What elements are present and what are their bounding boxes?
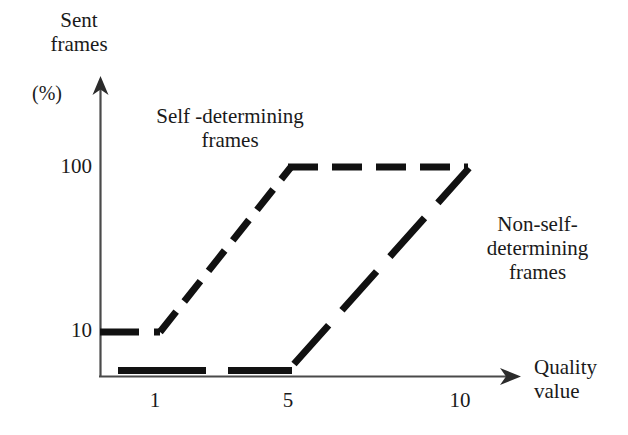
- y-tick-label-10: 10: [58, 318, 92, 342]
- x-tick-label-1: 1: [140, 388, 170, 412]
- x-axis-title-line1: Quality: [534, 355, 597, 379]
- series-annotation-nonself-line3: frames: [509, 260, 566, 284]
- x-axis-title: Qualityvalue: [534, 355, 628, 403]
- y-tick-label-100: 100: [52, 154, 92, 178]
- y-axis-title-line1: Sent: [60, 8, 97, 32]
- x-axis-title-line2: value: [534, 379, 579, 403]
- series-annotation-self-determining: Self -determiningframes: [130, 104, 330, 152]
- series-annotation-self-line1: Self -determining: [156, 104, 304, 128]
- y-axis-title: Sentframes: [24, 8, 134, 56]
- series-annotation-nonself-line1: Non-self-: [497, 212, 577, 236]
- series-non-self-determining: [118, 168, 469, 371]
- y-axis-unit-label: (%): [32, 82, 62, 105]
- series-annotation-self-line2: frames: [201, 128, 258, 152]
- x-tick-label-5: 5: [273, 388, 303, 412]
- series-self-determining: [100, 167, 468, 332]
- series-annotation-nonself-line2: determining: [487, 236, 588, 260]
- figure-canvas: Sentframes (%) 100 10 1 5 10 Qualityvalu…: [0, 0, 628, 435]
- x-tick-label-10: 10: [440, 388, 480, 412]
- y-axis-title-line2: frames: [50, 32, 107, 56]
- series-annotation-non-self-determining: Non-self-determiningframes: [450, 212, 625, 284]
